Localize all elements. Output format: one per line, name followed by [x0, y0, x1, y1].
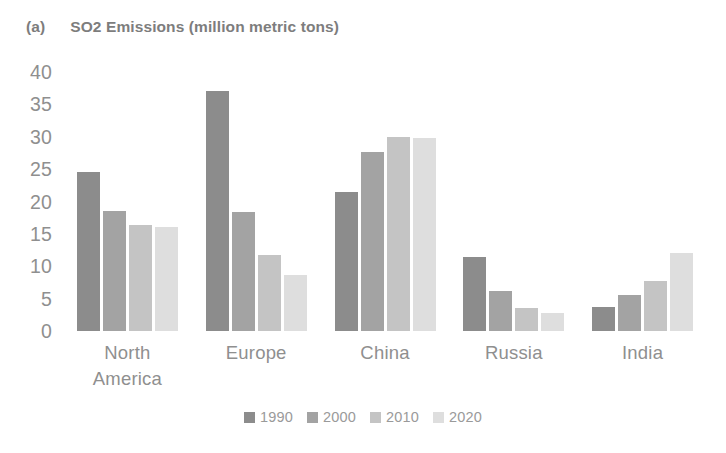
legend-swatch-icon: [433, 412, 444, 423]
y-axis-tick-label: 15: [30, 222, 52, 245]
y-axis-tick-label: 40: [30, 61, 52, 84]
plot-area: 4035302520151050: [63, 72, 707, 331]
bar: [232, 212, 255, 331]
bar: [103, 211, 126, 331]
panel-label: (a): [26, 18, 45, 36]
y-axis-tick-label: 0: [41, 320, 52, 343]
x-axis-category-label: India: [622, 340, 663, 366]
bar: [335, 192, 358, 331]
x-axis-category-label: North America: [93, 340, 162, 392]
legend-item[interactable]: 2000: [307, 409, 356, 425]
x-axis-category-label: China: [360, 340, 409, 366]
bar-group: [335, 72, 436, 331]
bar-group: [592, 72, 693, 331]
legend-label: 1990: [260, 409, 293, 425]
bar: [155, 227, 178, 331]
y-axis-tick-label: 30: [30, 125, 52, 148]
bar-group: [463, 72, 564, 331]
legend-label: 2000: [323, 409, 356, 425]
bar: [541, 313, 564, 331]
bar: [206, 91, 229, 331]
chart-header: (a) SO2 Emissions (million metric tons): [26, 18, 339, 36]
legend-item[interactable]: 2020: [433, 409, 482, 425]
bar: [463, 257, 486, 331]
chart-legend: 1990200020102020: [0, 409, 726, 425]
y-axis-tick-label: 35: [30, 93, 52, 116]
x-axis-category-label: Russia: [485, 340, 543, 366]
bar: [592, 307, 615, 331]
bar: [129, 225, 152, 331]
bar-group: [206, 72, 307, 331]
x-axis-category-label: Europe: [226, 340, 287, 366]
bar: [618, 295, 641, 331]
legend-swatch-icon: [244, 412, 255, 423]
bar: [284, 275, 307, 331]
bar: [258, 255, 281, 331]
bar: [489, 291, 512, 331]
bar-group: [77, 72, 178, 331]
legend-item[interactable]: 1990: [244, 409, 293, 425]
legend-label: 2010: [386, 409, 419, 425]
bar: [515, 308, 538, 331]
y-axis-tick-label: 5: [41, 287, 52, 310]
legend-item[interactable]: 2010: [370, 409, 419, 425]
y-axis-tick-label: 10: [30, 255, 52, 278]
bar: [413, 138, 436, 331]
bar: [670, 253, 693, 331]
legend-swatch-icon: [370, 412, 381, 423]
bar: [644, 281, 667, 332]
y-axis-tick-label: 25: [30, 158, 52, 181]
page-title: SO2 Emissions (million metric tons): [70, 18, 339, 36]
legend-swatch-icon: [307, 412, 318, 423]
legend-label: 2020: [449, 409, 482, 425]
bar: [387, 137, 410, 331]
bar: [77, 172, 100, 331]
chart-figure: (a) SO2 Emissions (million metric tons) …: [0, 0, 726, 453]
y-axis-tick-label: 20: [30, 190, 52, 213]
bar: [361, 152, 384, 331]
